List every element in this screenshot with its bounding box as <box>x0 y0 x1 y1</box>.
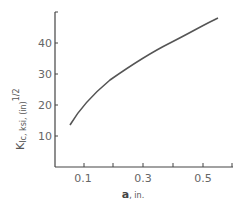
y-axis-label: KIc, ksi, (in)1/2 <box>12 88 28 150</box>
y-tick-label-40: 40 <box>38 37 52 50</box>
y-tick-label-20: 20 <box>38 99 52 112</box>
x-axis-label-main: a <box>122 188 129 201</box>
y-axis-label-sup: 1/2 <box>12 88 21 101</box>
y-axis-label-sub: Ic, ksi, (in) <box>19 101 28 143</box>
y-tick-label-30: 30 <box>38 68 52 81</box>
x-tick-label-0.5: 0.5 <box>194 172 212 185</box>
x-tick-label-0.3: 0.3 <box>134 172 152 185</box>
y-tick-label-10: 10 <box>38 130 52 143</box>
x-tick-label-0.1: 0.1 <box>74 172 92 185</box>
x-axis-label: a, in. <box>122 188 144 201</box>
data-curve <box>70 18 218 125</box>
x-axis-label-unit: , in. <box>129 191 144 200</box>
chart-canvas: 40 30 20 10 0.1 0.3 0.5 a, in. KIc, ksi,… <box>0 0 242 205</box>
